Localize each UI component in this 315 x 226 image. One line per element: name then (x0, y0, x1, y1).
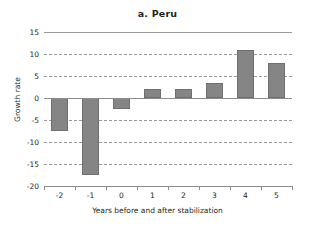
x-tick-mark (44, 186, 45, 190)
plot-area: 151050-5-10-15-20 (44, 32, 292, 186)
y-tick-label: 0 (34, 94, 39, 103)
x-tick-mark (75, 186, 76, 190)
x-tick-label: 1 (150, 191, 155, 200)
bar (113, 98, 131, 109)
y-axis-title: Growth rate (13, 60, 22, 140)
x-axis-title: Years before and after stabilization (0, 206, 315, 215)
bar (268, 63, 286, 98)
y-tick-label: -10 (27, 138, 39, 147)
bar-series (44, 32, 292, 186)
x-tick-mark (199, 186, 200, 190)
x-axis: -2-1012345 (44, 186, 292, 206)
zero-baseline (44, 98, 292, 99)
x-tick-label: -2 (56, 191, 63, 200)
y-tick-label: 5 (34, 72, 39, 81)
chart-figure: a. Peru Growth rate 151050-5-10-15-20 -2… (0, 0, 315, 226)
bar (82, 98, 100, 175)
x-tick-mark (230, 186, 231, 190)
x-tick-mark (106, 186, 107, 190)
y-tick-label: -15 (27, 160, 39, 169)
x-tick-mark (137, 186, 138, 190)
x-tick-label: 2 (181, 191, 186, 200)
bar (237, 50, 255, 98)
x-tick-mark (261, 186, 262, 190)
x-tick-mark (292, 186, 293, 190)
bar (51, 98, 69, 131)
bar (144, 89, 162, 98)
x-tick-label: -1 (87, 191, 94, 200)
x-tick-label: 5 (274, 191, 279, 200)
bar (175, 89, 193, 98)
x-tick-label: 4 (243, 191, 248, 200)
x-tick-label: 3 (212, 191, 217, 200)
bar (206, 83, 224, 98)
y-tick-label: 15 (29, 28, 39, 37)
x-tick-mark (168, 186, 169, 190)
y-tick-label: -5 (32, 116, 39, 125)
y-tick-label: -20 (27, 182, 39, 191)
chart-title: a. Peru (0, 8, 315, 19)
x-tick-label: 0 (119, 191, 124, 200)
y-tick-label: 10 (29, 50, 39, 59)
